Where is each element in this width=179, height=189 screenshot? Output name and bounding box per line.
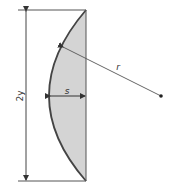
- circular-segment-diagram: 2y s r: [0, 0, 179, 189]
- center-point: [159, 94, 163, 98]
- label-2y: 2y: [15, 90, 25, 102]
- label-r: r: [116, 62, 121, 72]
- label-s: s: [65, 86, 70, 96]
